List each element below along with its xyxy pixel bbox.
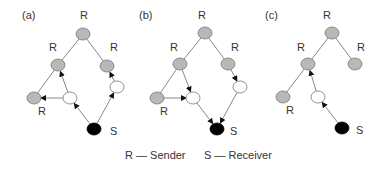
tree-edge bbox=[62, 39, 79, 61]
directed-edge bbox=[110, 72, 114, 81]
sender-node bbox=[325, 27, 339, 39]
node-label: R bbox=[160, 105, 168, 117]
node-label: S bbox=[230, 125, 237, 137]
sender-node bbox=[51, 59, 65, 71]
directed-edge bbox=[231, 69, 237, 81]
tree-edge bbox=[287, 69, 305, 92]
node-label: S bbox=[110, 125, 117, 137]
directed-edge bbox=[310, 71, 316, 92]
tree-edge bbox=[312, 38, 329, 60]
relay-node bbox=[110, 81, 124, 93]
legend: R — Sender S — Receiver bbox=[125, 149, 272, 161]
node-label: R bbox=[170, 41, 178, 53]
node-label: R bbox=[198, 9, 206, 21]
relay-node bbox=[233, 81, 247, 93]
sender-node bbox=[348, 58, 362, 70]
receiver-node bbox=[87, 123, 101, 135]
legend-receiver: S — Receiver bbox=[204, 149, 272, 161]
sender-node bbox=[301, 58, 315, 70]
directed-edge bbox=[74, 104, 90, 125]
directed-edge bbox=[97, 93, 114, 124]
tree-edge bbox=[38, 70, 55, 93]
sender-node bbox=[198, 27, 212, 39]
sender-node bbox=[27, 92, 41, 104]
relay-node bbox=[311, 91, 325, 103]
directed-edge bbox=[220, 92, 237, 123]
node-label: R bbox=[80, 9, 88, 21]
multicast-routing-diagram: (a)RRRRS(b)RRRRS(c)RRRRS R — Sender S — … bbox=[0, 0, 381, 170]
tree-edge bbox=[184, 38, 201, 60]
node-label: R bbox=[231, 41, 239, 53]
relay-node bbox=[63, 92, 77, 104]
node-label: R bbox=[286, 104, 294, 116]
tree-edge bbox=[336, 38, 352, 59]
tree-edge bbox=[87, 39, 104, 61]
sender-node bbox=[100, 60, 114, 72]
node-label: R bbox=[110, 41, 118, 53]
tree-edge bbox=[160, 69, 176, 93]
panel-b: (b)RRRRS bbox=[139, 9, 247, 137]
node-label: R bbox=[38, 105, 46, 117]
node-label: R bbox=[323, 9, 331, 21]
directed-edge bbox=[197, 103, 213, 124]
panel-label: (a) bbox=[22, 9, 35, 21]
directed-edge bbox=[60, 72, 68, 93]
panel-label: (b) bbox=[139, 9, 152, 21]
sender-node bbox=[276, 91, 290, 103]
node-label: R bbox=[49, 41, 57, 53]
panel-c: (c)RRRRS bbox=[265, 9, 365, 136]
panels-layer: (a)RRRRS(b)RRRRS(c)RRRRS bbox=[22, 9, 365, 137]
tree-edge bbox=[209, 38, 225, 59]
legend-sender: R — Sender bbox=[125, 149, 186, 161]
relay-node bbox=[186, 92, 200, 104]
panel-label: (c) bbox=[265, 9, 278, 21]
sender-node bbox=[76, 28, 90, 40]
sender-node bbox=[150, 92, 164, 104]
sender-node bbox=[221, 58, 235, 70]
directed-edge bbox=[322, 103, 338, 124]
sender-node bbox=[173, 58, 187, 70]
diagram-canvas: (a)RRRRS(b)RRRRS(c)RRRRS R — Sender S — … bbox=[0, 0, 381, 170]
directed-edge bbox=[182, 70, 190, 92]
node-label: R bbox=[297, 41, 305, 53]
node-label: S bbox=[356, 124, 363, 136]
receiver-node bbox=[210, 123, 224, 135]
receiver-node bbox=[335, 122, 349, 134]
panel-a: (a)RRRRS bbox=[22, 9, 124, 137]
node-label: R bbox=[357, 41, 365, 53]
